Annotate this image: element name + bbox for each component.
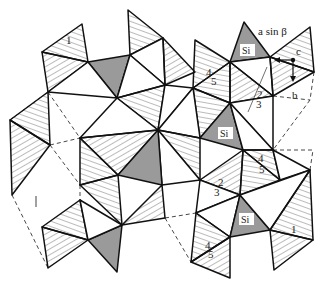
octahedron-face (163, 38, 195, 85)
diagram-stage: a sin β c b Si Si Si 4 5 2 3 4 5 2 3 4 5… (0, 0, 327, 289)
axis-label-c: c (296, 45, 301, 57)
dashed-edge (48, 92, 80, 138)
number-3-mid: 3 (214, 186, 220, 198)
si-label-middle: Si (220, 128, 229, 139)
silicate-structure-diagram: a sin β c b Si Si Si 4 5 2 3 4 5 2 3 4 5… (0, 0, 327, 289)
number-5-top: 5 (211, 75, 217, 87)
dashed-edge (165, 213, 196, 218)
polyhedra (10, 10, 314, 278)
number-5-bottom: 5 (208, 248, 214, 260)
number-5-mid: 5 (259, 163, 265, 175)
axis-label-a-sin-beta: a sin β (258, 25, 287, 37)
dashed-edge (310, 150, 313, 170)
dashed-edge (165, 218, 191, 262)
si-label-bottom: Si (241, 214, 250, 225)
dashed-edge (50, 145, 80, 185)
number-1-right: 1 (291, 223, 297, 235)
octahedron-face (122, 185, 165, 225)
number-1-topleft: 1 (66, 34, 72, 46)
number-3-top: 3 (256, 98, 262, 110)
si-label-top: Si (242, 45, 251, 56)
dashed-edge (50, 138, 80, 145)
dashed-edge (310, 72, 314, 100)
dashed-edge (273, 100, 310, 150)
axis-label-b: b (292, 89, 298, 101)
